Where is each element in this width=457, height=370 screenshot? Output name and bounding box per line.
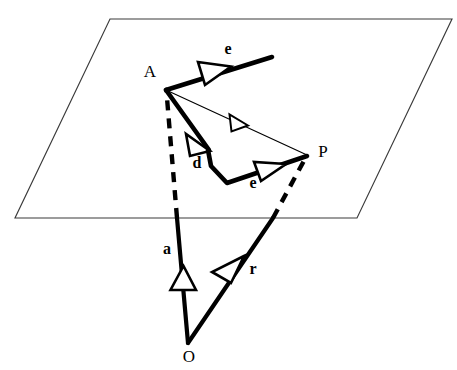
vector-a-arrowhead <box>171 266 197 290</box>
label-vector-e-lower: e <box>249 174 256 191</box>
label-vector-e-upper: e <box>224 40 231 57</box>
vector-ap-arrowhead <box>230 115 249 132</box>
label-point-o: O <box>183 347 195 366</box>
label-vector-a: a <box>163 240 171 257</box>
label-point-p: P <box>318 142 327 161</box>
vector-diagram-canvas: A P O e d e a r <box>0 0 457 370</box>
vector-a-dashed-segment <box>167 92 178 218</box>
label-point-a: A <box>144 62 157 81</box>
label-vector-d: d <box>193 154 202 171</box>
vector-e-lower-arrowhead <box>254 162 286 181</box>
geometry-figure: A P O e d e a r <box>0 0 457 370</box>
label-vector-r: r <box>249 260 256 277</box>
